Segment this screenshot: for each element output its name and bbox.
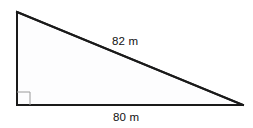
hypotenuse-length-label: 82 m [112, 36, 138, 48]
triangle-graphic [0, 0, 253, 128]
right-triangle-figure: 82 m 80 m [0, 0, 253, 128]
base-length-label: 80 m [113, 112, 139, 124]
